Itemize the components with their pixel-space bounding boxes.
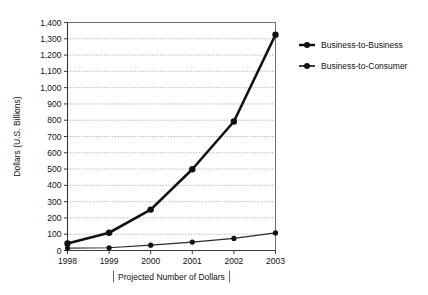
y-tick-label: 1,100	[40, 66, 62, 76]
y-axis-title-text: Dollars (U.S. Billions)	[12, 96, 22, 176]
y-tick-label: 100	[47, 229, 61, 239]
y-tick-label: 500	[47, 164, 61, 174]
x-tick-label: 1999	[100, 256, 119, 266]
y-tick-label: 700	[47, 132, 61, 142]
x-axis-tick-labels: 199819992000200120022003	[58, 256, 285, 266]
x-tick-label: 2002	[224, 256, 243, 266]
x-tick-label: 2001	[183, 256, 202, 266]
y-tick-label: 1,000	[40, 83, 62, 93]
data-point-marker	[189, 166, 195, 172]
data-point-marker	[148, 243, 153, 248]
y-tick-label: 900	[47, 99, 61, 109]
data-point-marker	[231, 118, 237, 124]
data-point-marker	[190, 239, 195, 244]
data-point-marker	[148, 206, 154, 212]
y-tick-label: 300	[47, 197, 61, 207]
gridlines	[68, 39, 276, 234]
y-tick-label: 200	[47, 213, 61, 223]
y-tick-label: 1,200	[40, 50, 62, 60]
data-point-marker	[272, 32, 278, 38]
y-tick-label: 1,300	[40, 34, 62, 44]
data-point-marker	[64, 240, 70, 246]
chart-container: 01002003004005006007008009001,0001,1001,…	[0, 0, 428, 295]
line-chart: 01002003004005006007008009001,0001,1001,…	[0, 0, 428, 295]
legend-marker-icon	[304, 42, 310, 48]
y-tick-label: 1,400	[40, 18, 62, 28]
y-tick-label: 800	[47, 115, 61, 125]
data-point-marker	[273, 230, 278, 235]
legend-label: Business-to-Business	[321, 40, 403, 50]
legend-marker-icon	[304, 63, 310, 69]
y-tick-label: 600	[47, 148, 61, 158]
data-point-marker	[231, 236, 236, 241]
x-tick-label: 1998	[58, 256, 77, 266]
legend-label: Business-to-Consumer	[321, 61, 408, 71]
y-tick-label: 0	[57, 246, 62, 256]
x-axis-title: Projected Number of Dollars	[114, 271, 230, 283]
y-tick-label: 400	[47, 180, 61, 190]
chart-legend: Business-to-BusinessBusiness-to-Consumer	[299, 40, 408, 71]
y-axis-tick-labels: 01002003004005006007008009001,0001,1001,…	[40, 18, 62, 256]
data-point-marker	[107, 245, 112, 250]
x-axis-title-text: Projected Number of Dollars	[118, 272, 225, 282]
x-tick-label: 2003	[266, 256, 285, 266]
y-axis-title: Dollars (U.S. Billions)	[12, 96, 22, 176]
data-point-marker	[106, 230, 112, 236]
x-tick-label: 2000	[141, 256, 160, 266]
series-line	[68, 35, 276, 244]
